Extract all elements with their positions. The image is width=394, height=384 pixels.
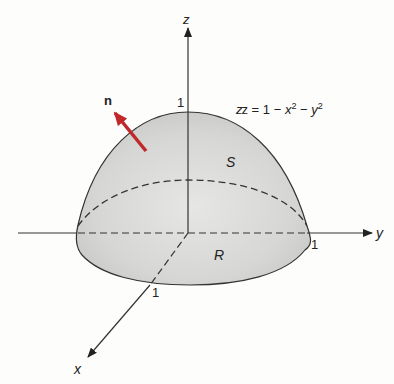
surface-label: S bbox=[226, 155, 235, 169]
x-tick-one: 1 bbox=[152, 286, 159, 299]
eq-mid: − bbox=[296, 102, 311, 117]
x-axis bbox=[88, 285, 150, 357]
surface-equation: zz = 1 − x2 − y2 bbox=[236, 102, 323, 116]
z-axis-label: z bbox=[183, 13, 190, 26]
z-tick-one: 1 bbox=[177, 96, 184, 109]
y-tick-one: 1 bbox=[311, 238, 318, 251]
normal-label: n bbox=[104, 94, 112, 107]
eq-lhs: z = 1 − bbox=[242, 102, 285, 117]
eq-exp2: 2 bbox=[318, 101, 323, 111]
paraboloid-surface bbox=[76, 112, 310, 285]
diagram-canvas bbox=[0, 0, 394, 384]
region-label: R bbox=[214, 248, 224, 262]
paraboloid-diagram: z 1 zz = 1 − x2 − y2 n S R y 1 1 x bbox=[0, 0, 394, 384]
x-axis-label: x bbox=[74, 362, 81, 376]
y-axis-label: y bbox=[376, 226, 383, 240]
